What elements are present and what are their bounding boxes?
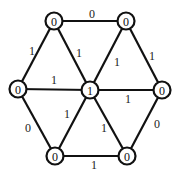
edge-label: 1 (51, 73, 57, 87)
node-label: 0 (159, 84, 165, 98)
edge-label: 0 (89, 7, 95, 21)
node-left: 0 (10, 81, 27, 98)
node-right: 0 (154, 82, 171, 99)
edge-label: 1 (101, 121, 107, 135)
edge-label: 1 (76, 46, 82, 60)
node-bottom-right: 0 (119, 148, 136, 165)
edge-top-right-right (126, 21, 162, 90)
node-label: 0 (124, 150, 130, 164)
edge-left-center (18, 89, 90, 90)
edge-label: 1 (149, 49, 155, 63)
edge-center-bottom-left (55, 90, 90, 156)
node-top-left: 0 (46, 13, 63, 30)
edge-label: 0 (154, 117, 160, 131)
edge-label: 1 (125, 92, 131, 106)
node-label: 0 (15, 83, 21, 97)
edge-left-bottom-left (18, 89, 55, 156)
edge-label: 0 (25, 121, 31, 135)
edge-top-left-left (18, 21, 54, 89)
edge-top-left-center (54, 21, 90, 90)
node-center: 1 (82, 82, 99, 99)
edge-center-bottom-right (90, 90, 127, 156)
node-bottom-left: 0 (47, 148, 64, 165)
node-top-right: 0 (118, 13, 135, 30)
edge-label: 1 (29, 44, 35, 58)
node-label: 0 (51, 15, 57, 29)
edge-label: 1 (114, 55, 120, 69)
node-label: 1 (87, 84, 93, 98)
edge-label: 1 (91, 158, 97, 172)
edge-label: 1 (64, 107, 70, 121)
node-label: 0 (52, 150, 58, 164)
edge-top-right-center (90, 21, 126, 90)
graph-diagram: 011111101101 0001000 (0, 0, 182, 178)
node-label: 0 (123, 15, 129, 29)
